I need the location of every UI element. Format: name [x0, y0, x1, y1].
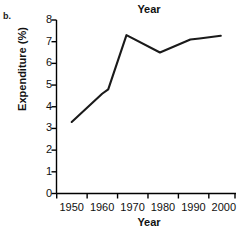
x-tick-label: 1990: [177, 202, 209, 213]
data-series-line: [72, 35, 221, 122]
y-tick-label: 3: [36, 122, 52, 133]
figure-panel: b. Year Expenditure (%) Year 012345678 1…: [0, 0, 241, 235]
y-tick-label: 4: [36, 101, 52, 112]
x-axis-ticks: [57, 194, 235, 199]
y-tick-label: 6: [36, 57, 52, 68]
y-tick-label: 8: [36, 14, 52, 25]
x-tick-label: 1970: [117, 202, 149, 213]
x-tick-label: 2000: [208, 202, 240, 213]
y-axis-ticks: [52, 20, 57, 194]
x-tick-label: 1950: [56, 202, 88, 213]
y-tick-label: 2: [36, 144, 52, 155]
x-tick-label: 1960: [86, 202, 118, 213]
y-tick-label: 7: [36, 36, 52, 47]
y-tick-label: 1: [36, 166, 52, 177]
y-tick-label: 5: [36, 79, 52, 90]
x-tick-label: 1980: [147, 202, 179, 213]
y-tick-label: 0: [36, 188, 52, 199]
